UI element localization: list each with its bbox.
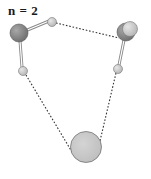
covalent-bonds: [20, 21, 124, 67]
atoms: [10, 18, 138, 163]
bond-o2-h2b: [119, 40, 124, 65]
hbond-h1a-o2: [56, 23, 119, 38]
central-ion: [71, 132, 102, 163]
hydrogen-atom-1a: [48, 18, 57, 27]
hydrogen-atom-1b: [19, 67, 28, 76]
hbond-h2b-ion: [100, 73, 116, 141]
hydrogen-atom-2b: [114, 65, 123, 74]
hydrogen-atom-2a: [123, 22, 138, 37]
oxygen-atom-1: [10, 24, 28, 42]
hydrogen-bonds: [26, 23, 119, 152]
bond-o1-h1b: [20, 41, 22, 67]
hbond-h1b-ion: [26, 75, 72, 152]
bond-o1-h1a: [25, 21, 49, 31]
molecular-cluster-diagram: [0, 0, 151, 179]
